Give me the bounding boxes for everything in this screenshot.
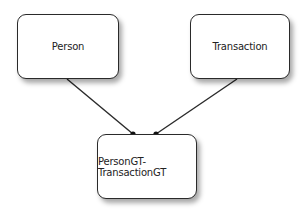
edge-person-to-join: [67, 79, 133, 134]
entity-join-label: PersonGT-TransactionGT: [98, 156, 196, 178]
entity-transaction-label: Transaction: [212, 41, 267, 52]
entity-persongt-transactiongt[interactable]: PersonGT-TransactionGT: [97, 134, 197, 199]
diagram-canvas: Person Transaction PersonGT-TransactionG…: [0, 0, 308, 215]
entity-person[interactable]: Person: [17, 14, 119, 79]
edge-transaction-to-join: [156, 79, 237, 134]
entity-person-label: Person: [52, 41, 84, 52]
entity-transaction[interactable]: Transaction: [190, 14, 290, 79]
